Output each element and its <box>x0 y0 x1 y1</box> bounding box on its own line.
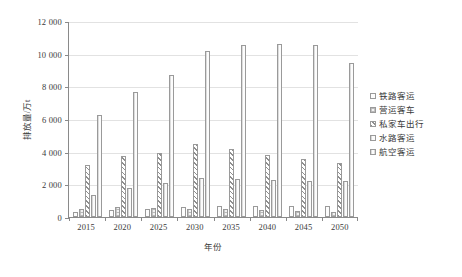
x-axis-tick <box>286 217 287 221</box>
x-axis-tick-label: 2035 <box>213 222 249 236</box>
bar <box>91 195 96 217</box>
bar <box>115 207 120 217</box>
legend-item[interactable]: 铁路客运 <box>370 92 424 101</box>
bar <box>205 51 210 217</box>
bar <box>79 209 84 217</box>
bar <box>163 183 168 217</box>
bar <box>235 179 240 217</box>
bar-groups <box>69 22 358 217</box>
bar <box>343 181 348 217</box>
bar-group <box>250 22 286 217</box>
x-axis-tick <box>69 217 70 221</box>
bar <box>301 159 306 217</box>
bar <box>259 210 264 217</box>
x-axis-tick <box>141 217 142 221</box>
bar <box>229 149 234 217</box>
bar-group <box>177 22 213 217</box>
emissions-bar-chart: 排放量/万t 02 0004 0006 0008 00010 00012 000… <box>0 0 462 277</box>
x-axis-tick-label: 2040 <box>249 222 285 236</box>
bar <box>313 45 318 217</box>
legend-item-label: 私家车出行 <box>379 120 424 129</box>
legend-item[interactable]: 私家车出行 <box>370 120 424 129</box>
y-axis-tick-label: 8 000 <box>42 82 62 92</box>
x-axis-tick <box>105 217 106 221</box>
bar-group <box>214 22 250 217</box>
y-axis-tick-label: 2 000 <box>42 180 62 190</box>
legend-item-label: 水路客运 <box>379 134 415 143</box>
plot-area: 02 0004 0006 0008 00010 00012 000 <box>68 22 358 218</box>
bar-group <box>69 22 105 217</box>
bar-group <box>286 22 322 217</box>
bar <box>331 212 336 217</box>
x-axis-tick <box>214 217 215 221</box>
bar <box>151 208 156 217</box>
legend-item[interactable]: 航空客运 <box>370 148 424 157</box>
bar <box>277 44 282 217</box>
bar <box>307 181 312 217</box>
legend: 铁路客运营运客车私家车出行水路客运航空客运 <box>370 92 424 157</box>
y-axis-title: 排放量/万t <box>20 100 32 141</box>
x-axis-tick <box>357 217 358 221</box>
bar <box>181 207 186 217</box>
legend-item[interactable]: 水路客运 <box>370 134 424 143</box>
bar <box>169 75 174 217</box>
legend-swatch-icon <box>370 149 376 155</box>
x-axis-tick <box>322 217 323 221</box>
bar <box>145 209 150 217</box>
bar <box>223 209 228 217</box>
x-axis-title: 年份 <box>68 240 358 252</box>
x-axis-tick-label: 2025 <box>141 222 177 236</box>
legend-swatch-icon <box>370 93 376 99</box>
bar <box>97 115 102 217</box>
bar <box>73 212 78 217</box>
bar-group <box>105 22 141 217</box>
bar <box>289 206 294 217</box>
bar <box>133 92 138 217</box>
legend-swatch-icon <box>370 135 376 141</box>
y-axis-tick-label: 10 000 <box>37 50 62 60</box>
bar <box>265 155 270 217</box>
legend-item[interactable]: 营运客车 <box>370 106 424 115</box>
legend-item-label: 航空客运 <box>379 148 415 157</box>
legend-swatch-icon <box>370 107 376 113</box>
x-axis-tick-label: 2015 <box>68 222 104 236</box>
bar <box>187 209 192 217</box>
legend-swatch-icon <box>370 121 376 127</box>
bar <box>295 211 300 217</box>
bar <box>253 206 258 217</box>
x-axis-tick <box>250 217 251 221</box>
y-axis-tick-label: 12 000 <box>37 17 62 27</box>
bar <box>157 153 162 217</box>
bar <box>337 163 342 217</box>
bar <box>325 206 330 217</box>
x-axis-tick-label: 2045 <box>286 222 322 236</box>
x-axis-tick-label: 2050 <box>322 222 358 236</box>
bar-group <box>322 22 358 217</box>
y-axis-tick-label: 0 <box>58 213 62 223</box>
legend-item-label: 铁路客运 <box>379 92 415 101</box>
y-axis-tick-label: 6 000 <box>42 115 62 125</box>
x-axis-tick <box>177 217 178 221</box>
x-axis-tick-labels: 20152020202520302035204020452050 <box>68 222 358 236</box>
bar <box>349 63 354 217</box>
bar <box>271 180 276 217</box>
bar <box>85 165 90 217</box>
bar <box>127 188 132 217</box>
bar <box>121 156 126 217</box>
bar <box>109 210 114 217</box>
legend-item-label: 营运客车 <box>379 106 415 115</box>
bar <box>217 206 222 217</box>
x-axis-tick-label: 2020 <box>104 222 140 236</box>
bar <box>199 178 204 217</box>
x-axis-tick-label: 2030 <box>177 222 213 236</box>
bar <box>193 144 198 217</box>
y-axis-tick-label: 4 000 <box>42 148 62 158</box>
bar <box>241 45 246 217</box>
bar-group <box>141 22 177 217</box>
